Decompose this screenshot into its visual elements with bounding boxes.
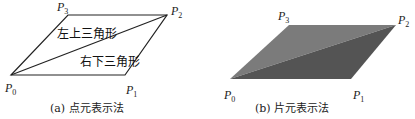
vertex-label-p2-a: P2	[171, 5, 182, 20]
vertex-label-p3-a: P3	[57, 1, 68, 16]
lower-right-triangle-label: 右下三角形	[80, 56, 140, 68]
vertex-label-p1-b: P1	[353, 89, 364, 104]
vertex-label-p0-a: P0	[5, 82, 16, 97]
vertex-label-p0-b: P0	[224, 89, 235, 104]
upper-left-triangle-label: 左上三角形	[57, 28, 117, 40]
caption-a: (a) 点元表示法	[50, 103, 124, 114]
vertex-label-p2-b: P2	[398, 14, 409, 29]
vertex-label-p3-b: P3	[278, 10, 289, 25]
figure-b-patch-representation	[230, 25, 396, 79]
caption-b: (b) 片元表示法	[255, 103, 329, 114]
vertex-label-p1-a: P1	[126, 84, 137, 99]
